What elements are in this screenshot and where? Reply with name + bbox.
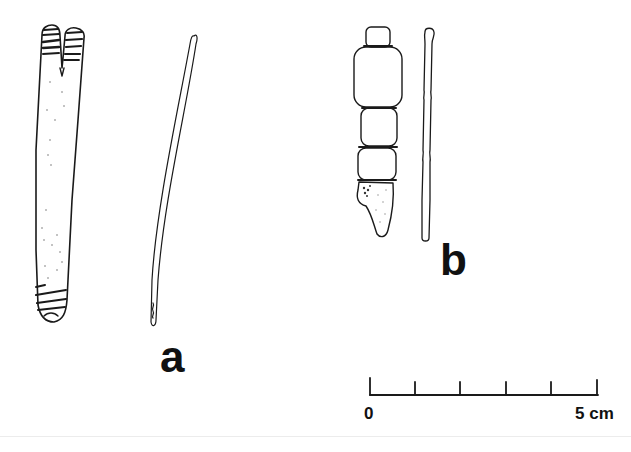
- scale-start-label: 0: [364, 405, 373, 422]
- artifact-a-right-needle: [151, 35, 197, 326]
- figure-canvas: a b 0 5 cm: [0, 0, 631, 452]
- artifact-a-left-tool: [36, 25, 84, 322]
- artifact-b-left-segmented: [354, 27, 402, 237]
- scale-bar: [370, 378, 598, 395]
- figure-label-a: a: [160, 335, 184, 379]
- artifact-drawings: [0, 0, 631, 452]
- figure-label-b: b: [440, 238, 467, 282]
- scale-end-label: 5 cm: [575, 405, 614, 422]
- artifact-b-right-rod: [422, 28, 434, 241]
- page-rule: [0, 436, 631, 437]
